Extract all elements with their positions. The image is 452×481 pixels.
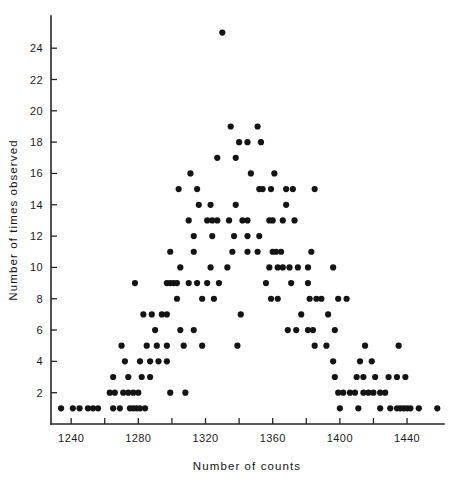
data-point: [191, 233, 197, 239]
data-point: [357, 358, 363, 364]
data-point: [174, 296, 180, 302]
data-point: [117, 405, 123, 411]
data-point: [283, 186, 289, 192]
data-point: [135, 390, 141, 396]
data-point: [167, 249, 173, 255]
data-point: [394, 374, 400, 380]
y-tick-label: 22: [30, 74, 43, 86]
data-point: [147, 358, 153, 364]
data-point: [298, 311, 304, 317]
data-point: [147, 374, 153, 380]
y-tick-label: 24: [30, 42, 43, 54]
data-point: [142, 405, 148, 411]
data-point: [382, 390, 388, 396]
data-point: [229, 249, 235, 255]
data-point: [285, 327, 291, 333]
data-point: [254, 249, 260, 255]
data-point: [254, 123, 260, 129]
data-point: [152, 327, 158, 333]
data-point: [199, 296, 205, 302]
data-point: [177, 327, 183, 333]
x-tick-label: 1280: [125, 432, 151, 444]
data-point: [307, 296, 313, 302]
data-point: [186, 217, 192, 223]
data-point: [266, 264, 272, 270]
data-point: [377, 405, 383, 411]
data-point: [209, 233, 215, 239]
data-point: [330, 264, 336, 270]
data-point: [270, 217, 276, 223]
data-point: [70, 405, 76, 411]
data-point: [271, 170, 277, 176]
data-point: [260, 186, 266, 192]
x-tick-label: 1440: [394, 432, 420, 444]
data-point: [110, 405, 116, 411]
data-point: [248, 170, 254, 176]
x-axis-title: Number of counts: [193, 460, 301, 472]
data-point: [343, 296, 349, 302]
data-point: [76, 405, 82, 411]
data-point: [154, 343, 160, 349]
data-point: [310, 327, 316, 333]
data-point: [139, 374, 145, 380]
data-point: [176, 186, 182, 192]
data-point: [199, 343, 205, 349]
data-point: [186, 280, 192, 286]
data-point: [234, 343, 240, 349]
data-point: [214, 217, 220, 223]
data-point: [207, 264, 213, 270]
data-point: [318, 296, 324, 302]
x-tick-label: 1320: [192, 432, 218, 444]
data-point: [164, 343, 170, 349]
data-point: [191, 327, 197, 333]
data-point: [144, 343, 150, 349]
data-point: [396, 343, 402, 349]
y-tick-label: 8: [36, 293, 43, 305]
data-point: [110, 374, 116, 380]
data-point: [354, 374, 360, 380]
data-point: [112, 390, 118, 396]
data-point: [224, 264, 230, 270]
data-point: [191, 249, 197, 255]
y-tick-label: 12: [30, 230, 43, 242]
data-point: [214, 155, 220, 161]
plot-background: [0, 0, 452, 481]
data-point: [335, 296, 341, 302]
scatter-plot: 24681012141618202224 1240128013201360140…: [0, 0, 452, 481]
data-point: [216, 280, 222, 286]
data-point: [181, 343, 187, 349]
y-tick-label: 6: [36, 324, 43, 336]
data-point: [244, 233, 250, 239]
data-point: [312, 343, 318, 349]
data-point: [290, 186, 296, 192]
data-point: [244, 139, 250, 145]
data-point: [312, 186, 318, 192]
data-point: [187, 170, 193, 176]
x-tick-label: 1240: [58, 432, 84, 444]
data-point: [231, 233, 237, 239]
data-point: [204, 280, 210, 286]
y-tick-label: 4: [36, 355, 43, 367]
y-tick-label: 2: [36, 387, 43, 399]
data-point: [369, 358, 375, 364]
y-tick-label: 10: [30, 261, 43, 273]
data-point: [233, 202, 239, 208]
data-point: [402, 374, 408, 380]
data-point: [182, 390, 188, 396]
data-point: [323, 343, 329, 349]
data-point: [226, 217, 232, 223]
x-tick-label: 1400: [327, 432, 353, 444]
data-point: [228, 123, 234, 129]
data-point: [258, 139, 264, 145]
data-point: [337, 405, 343, 411]
data-point: [330, 358, 336, 364]
data-point: [58, 405, 64, 411]
data-point: [256, 233, 262, 239]
data-point: [407, 405, 413, 411]
data-point: [280, 264, 286, 270]
y-tick-label: 18: [30, 136, 43, 148]
data-point: [196, 202, 202, 208]
data-point: [219, 29, 225, 35]
x-tick-label: 1360: [260, 432, 286, 444]
data-point: [167, 390, 173, 396]
